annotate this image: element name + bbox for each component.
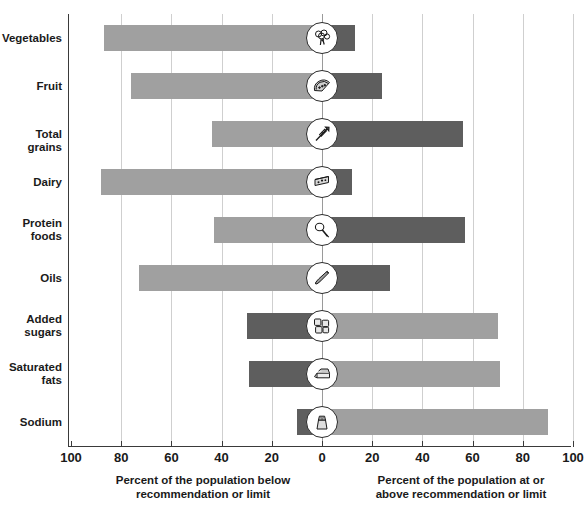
category-label: Total grains (0, 128, 62, 154)
wheat-stalk-icon (306, 118, 338, 150)
watermelon-slice-icon (306, 70, 338, 102)
x-tick-label: 20 (365, 450, 379, 465)
x-tick-label: 20 (265, 450, 279, 465)
bar-row: Fruit (0, 62, 578, 110)
x-tick-label: 0 (318, 450, 325, 465)
sugar-cubes-icon (306, 310, 338, 342)
bar-segment-right (322, 313, 498, 339)
x-axis-line (68, 446, 571, 447)
x-tick-label: 100 (562, 450, 584, 465)
x-axis-caption-right: Percent of the population at or above re… (352, 474, 570, 501)
butter-stick-icon (306, 358, 338, 390)
category-label: Protein foods (22, 217, 62, 243)
bar-row: Oils (0, 254, 578, 302)
category-label: Oils (40, 272, 62, 285)
salt-shaker-icon (306, 406, 338, 438)
x-tick-label: 100 (60, 450, 82, 465)
bar-row: Vegetables (0, 14, 578, 62)
oil-bottle-icon (306, 262, 338, 294)
bar-segment-right (322, 217, 465, 243)
category-label: Sodium (20, 416, 62, 429)
broccoli-icon (306, 22, 338, 54)
bar-row: Added sugars (0, 302, 578, 350)
bar-segment-left (131, 73, 322, 99)
x-tick-label: 60 (465, 450, 479, 465)
x-tick-label: 60 (164, 450, 178, 465)
x-tick-label: 40 (214, 450, 228, 465)
category-label: Added sugars (24, 313, 62, 339)
category-label: Saturated fats (9, 361, 62, 387)
x-tick-label: 40 (415, 450, 429, 465)
drumstick-icon (306, 214, 338, 246)
bar-segment-left (104, 25, 322, 51)
x-axis-caption-left: Percent of the population below recommen… (88, 474, 318, 501)
bar-segment-right (322, 361, 500, 387)
x-tick-label: 80 (114, 450, 128, 465)
category-label: Fruit (36, 80, 62, 93)
bar-row: Dairy (0, 158, 578, 206)
category-label: Vegetables (2, 32, 62, 45)
bar-segment-left (139, 265, 322, 291)
bar-segment-right (322, 409, 548, 435)
category-label: Dairy (33, 176, 62, 189)
bar-row: Total grains (0, 110, 578, 158)
bar-segment-right (322, 121, 463, 147)
bar-row: Sodium (0, 398, 578, 446)
bar-row: Saturated fats (0, 350, 578, 398)
cheese-wedge-icon (306, 166, 338, 198)
x-tick-label: 80 (516, 450, 530, 465)
bar-row: Protein foods (0, 206, 578, 254)
bar-segment-left (101, 169, 322, 195)
